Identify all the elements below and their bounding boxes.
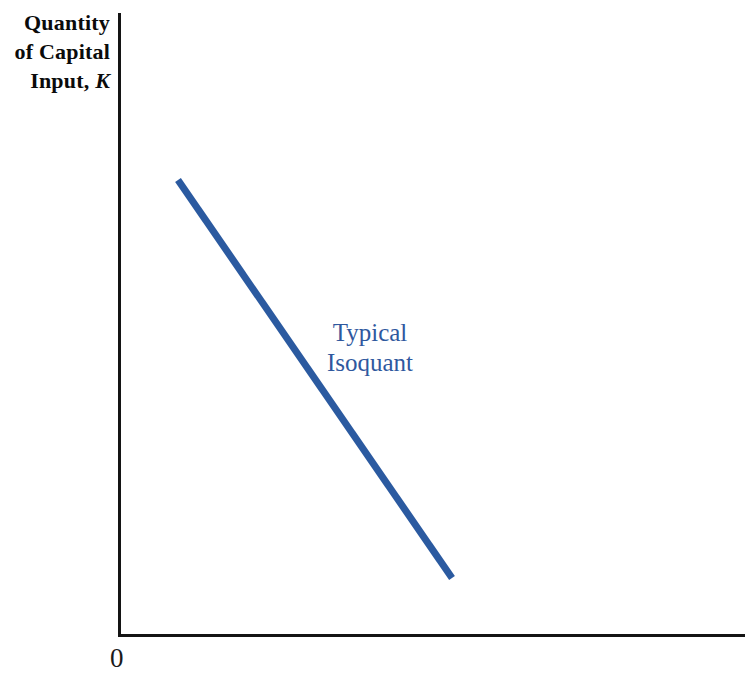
isoquant-figure: Quantity of Capital Input, K 0 Typical I… xyxy=(0,0,745,681)
isoquant-line xyxy=(178,180,452,578)
isoquant-label: Typical Isoquant xyxy=(300,318,440,378)
